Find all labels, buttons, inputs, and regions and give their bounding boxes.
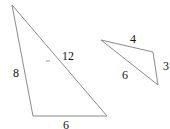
label-large-hypotenuse: 12 [62, 49, 74, 63]
label-large-left: 8 [13, 66, 19, 80]
label-small-right: 3 [163, 59, 169, 73]
label-large-bottom: 6 [63, 118, 69, 129]
small-triangle [101, 40, 158, 85]
triangles-figure: 8 12 6 4 3 6 [0, 0, 170, 129]
large-triangle [12, 5, 107, 116]
label-small-top: 4 [130, 32, 136, 46]
label-small-long: 6 [122, 68, 128, 82]
diagram-canvas: 8 12 6 4 3 6 [0, 0, 170, 129]
